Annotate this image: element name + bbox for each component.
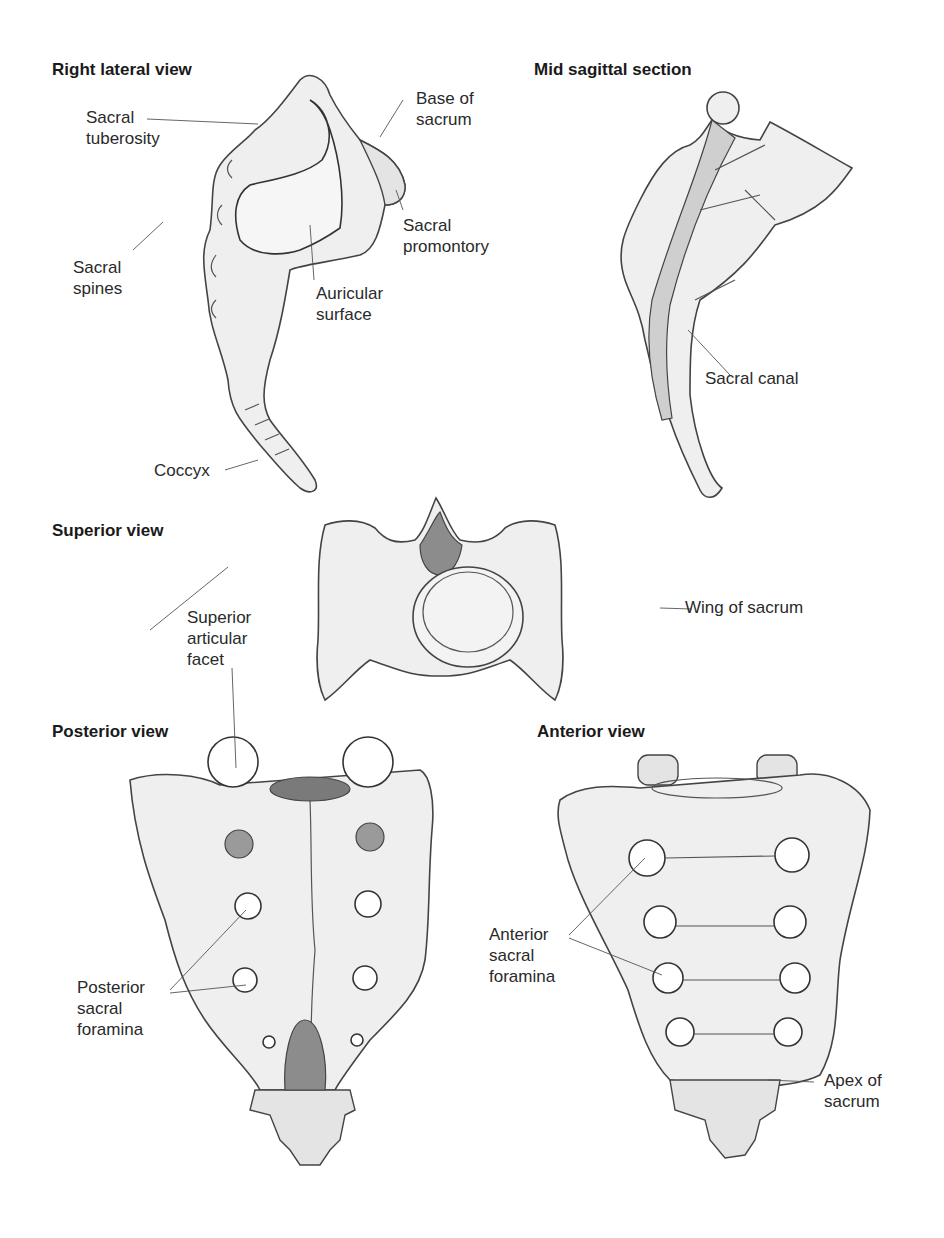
label-anterior-sacral-foramina: Anterior sacral foramina <box>489 924 555 987</box>
sacrum-illustration <box>0 0 944 1238</box>
heading-mid-sagittal-section: Mid sagittal section <box>534 60 692 80</box>
label-wing-of-sacrum: Wing of sacrum <box>685 597 803 618</box>
label-auricular-surface: Auricular surface <box>316 283 383 325</box>
label-sacral-canal: Sacral canal <box>705 368 799 389</box>
label-base-of-sacrum: Base of sacrum <box>416 88 474 130</box>
label-coccyx: Coccyx <box>154 460 210 481</box>
superior-view-drawing <box>317 498 563 700</box>
label-apex-of-sacrum: Apex of sacrum <box>824 1070 882 1112</box>
heading-right-lateral-view: Right lateral view <box>52 60 192 80</box>
label-superior-articular-facet: Superior articular facet <box>187 607 251 670</box>
label-sacral-spines: Sacral spines <box>73 257 122 299</box>
posterior-view-drawing <box>130 737 433 1165</box>
label-posterior-sacral-foramina: Posterior sacral foramina <box>77 977 145 1040</box>
heading-posterior-view: Posterior view <box>52 722 168 742</box>
label-sacral-tuberosity: Sacral tuberosity <box>86 107 160 149</box>
label-sacral-promontory: Sacral promontory <box>403 215 489 257</box>
heading-anterior-view: Anterior view <box>537 722 645 742</box>
mid-sagittal-drawing <box>621 92 852 497</box>
heading-superior-view: Superior view <box>52 521 163 541</box>
